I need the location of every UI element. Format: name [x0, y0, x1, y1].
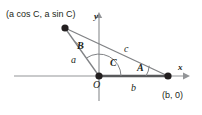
- point-dot-right: [164, 72, 171, 79]
- angle-label-A: A: [137, 63, 144, 73]
- angle-arc-A: [146, 66, 149, 76]
- angle-label-B: B: [77, 41, 84, 51]
- x-axis-label: x: [178, 63, 183, 72]
- geometry-figure: (a cos C, a sin C) y x O (b, 0) a b c A …: [0, 0, 202, 115]
- point-dot-top-left: [61, 24, 68, 31]
- x-axis-arrowhead: [183, 73, 190, 80]
- point-label-top-left: (a cos C, a sin C): [6, 10, 76, 19]
- origin-label: O: [93, 80, 100, 90]
- point-label-right: (b, 0): [162, 91, 183, 100]
- side-label-c: c: [124, 44, 128, 54]
- side-label-b: b: [131, 83, 136, 93]
- side-label-a: a: [71, 55, 76, 65]
- triangle-side-a: [65, 28, 99, 76]
- y-axis-label: y: [94, 12, 98, 21]
- angle-label-C: C: [110, 58, 117, 68]
- triangle-side-c: [65, 28, 168, 76]
